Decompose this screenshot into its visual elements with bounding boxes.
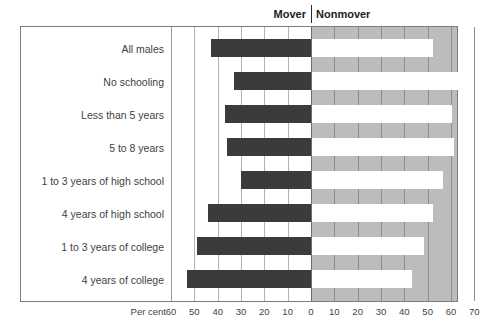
x-tick-label: 70 — [461, 305, 487, 319]
category-label: Less than 5 years — [14, 98, 164, 131]
axis-zero-line — [311, 27, 312, 301]
x-tick-label: 20 — [251, 305, 277, 319]
bar-row: 5 to 8 years — [0, 131, 491, 164]
category-label: No schooling — [14, 65, 164, 98]
category-label: 4 years of high school — [14, 197, 164, 230]
x-tick-label: 20 — [345, 305, 371, 319]
bar-mover — [211, 39, 311, 57]
x-tick-label: 10 — [321, 305, 347, 319]
bar-row: 4 years of college — [0, 263, 491, 296]
legend-label-nonmover: Nonmover — [316, 6, 436, 22]
bar-mover — [208, 204, 311, 222]
x-tick-label: 50 — [415, 305, 441, 319]
x-tick-label: 10 — [275, 305, 301, 319]
x-axis: Per cent 605040302010010203040506070 — [0, 305, 491, 323]
x-tick-label: 0 — [298, 305, 324, 319]
mover-nonmover-bar-chart: Mover Nonmover All malesNo schoolingLess… — [0, 0, 491, 332]
x-tick-label: 30 — [228, 305, 254, 319]
category-label: 5 to 8 years — [14, 131, 164, 164]
bar-nonmover — [312, 105, 452, 123]
bar-mover — [197, 237, 311, 255]
bar-row: No schooling — [0, 65, 491, 98]
bar-row: 4 years of high school — [0, 197, 491, 230]
bar-nonmover — [312, 138, 454, 156]
bar-nonmover — [312, 270, 412, 288]
chart-frame-bottom — [20, 301, 458, 302]
legend-label-mover: Mover — [211, 6, 312, 22]
bar-nonmover — [312, 72, 464, 90]
x-tick-label: 60 — [158, 305, 184, 319]
bar-mover — [225, 105, 311, 123]
bar-mover — [227, 138, 311, 156]
category-label: 4 years of college — [14, 263, 164, 296]
bar-nonmover — [312, 171, 443, 189]
x-tick-label: 30 — [368, 305, 394, 319]
bar-nonmover — [312, 237, 424, 255]
category-label: All males — [14, 32, 164, 65]
bar-row: 1 to 3 years of high school — [0, 164, 491, 197]
x-tick-label: 60 — [438, 305, 464, 319]
bar-row: All males — [0, 32, 491, 65]
x-tick-label: 40 — [205, 305, 231, 319]
chart-frame-top — [20, 26, 458, 27]
bar-row: Less than 5 years — [0, 98, 491, 131]
x-tick-label: 40 — [391, 305, 417, 319]
x-tick-label: 50 — [181, 305, 207, 319]
category-label: 1 to 3 years of college — [14, 230, 164, 263]
bar-mover — [187, 270, 311, 288]
bar-mover — [241, 171, 311, 189]
bar-mover — [234, 72, 311, 90]
bar-nonmover — [312, 204, 433, 222]
category-label: 1 to 3 years of high school — [14, 164, 164, 197]
bar-nonmover — [312, 39, 433, 57]
bar-row: 1 to 3 years of college — [0, 230, 491, 263]
category-label-separator — [171, 27, 172, 301]
legend-divider — [311, 5, 312, 23]
